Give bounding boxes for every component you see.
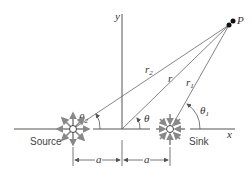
point-p-dot — [231, 19, 236, 24]
r-line — [122, 25, 229, 129]
source-point — [70, 126, 77, 133]
theta1-label: θ1 — [200, 104, 209, 118]
sink-label: Sink — [189, 136, 209, 147]
dimension-lines — [73, 140, 170, 166]
theta-arc — [137, 118, 140, 129]
source-label: Source — [30, 136, 62, 147]
source-sink-diagram: x y P r2 r r1 θ2 θ θ1 Source — [0, 0, 252, 177]
sink-point — [167, 126, 174, 133]
theta-label: θ — [144, 112, 150, 124]
r-label: r — [168, 72, 173, 84]
r2-label: r2 — [145, 63, 153, 77]
point-p — [227, 23, 232, 28]
theta2-arc — [96, 114, 100, 129]
r1-label: r1 — [186, 76, 194, 90]
theta1-arc — [187, 104, 200, 129]
y-axis-label: y — [114, 10, 120, 22]
x-axis-label: x — [226, 128, 232, 140]
point-p-label: P — [236, 14, 244, 26]
dimension-a-left: a — [96, 153, 102, 165]
dimension-a-right: a — [144, 153, 150, 165]
